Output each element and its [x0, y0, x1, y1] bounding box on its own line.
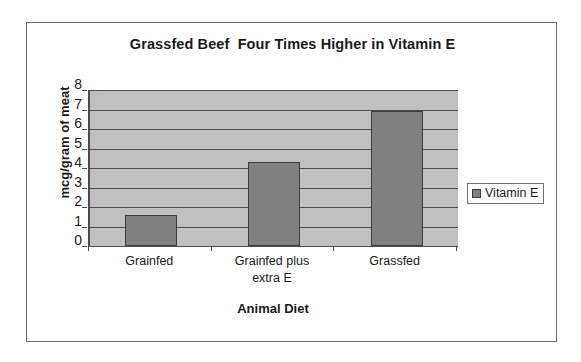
- y-tick-mark-0: [82, 246, 87, 247]
- bar-grassfed: [371, 111, 423, 246]
- bar-grainfed-plus-extra-e: [248, 162, 300, 246]
- x-tick-label-line: extra E: [252, 271, 292, 285]
- y-tick-mark-1: [82, 227, 87, 228]
- chart-title: Grassfed Beef Four Times Higher in Vitam…: [27, 36, 558, 52]
- y-tick-label-1: 1: [60, 214, 82, 228]
- x-tick-mark-1: [211, 246, 212, 251]
- x-axis-title: Animal Diet: [88, 301, 458, 316]
- x-tick-label-grainfed: Grainfed: [88, 253, 211, 270]
- y-tick-mark-4: [82, 168, 87, 169]
- y-tick-mark-2: [82, 207, 87, 208]
- y-tick-label-2: 2: [60, 194, 82, 208]
- x-axis-line: [88, 246, 458, 247]
- y-tick-mark-3: [82, 188, 87, 189]
- x-tick-mark-2: [333, 246, 334, 251]
- y-tick-label-5: 5: [60, 136, 82, 150]
- y-tick-label-7: 7: [60, 97, 82, 111]
- x-tick-label-line: Grainfed plus: [235, 254, 309, 268]
- y-tick-label-4: 4: [60, 155, 82, 169]
- x-tick-label-grassfed: Grassfed: [333, 253, 456, 270]
- y-tick-label-0: 0: [60, 233, 82, 247]
- y-tick-label-6: 6: [60, 116, 82, 130]
- legend-swatch-vitamin-e: [472, 189, 481, 198]
- bar-grainfed: [125, 215, 177, 246]
- y-tick-label-3: 3: [60, 175, 82, 189]
- legend-label-vitamin-e: Vitamin E: [485, 187, 538, 200]
- x-tick-mark-0: [88, 246, 89, 251]
- plot-area: [88, 90, 458, 246]
- y-tick-mark-6: [82, 129, 87, 130]
- y-axis-tick-labels: 012345678: [60, 84, 82, 240]
- y-tick-label-8: 8: [60, 77, 82, 91]
- x-tick-label-line: Grainfed: [125, 254, 173, 268]
- x-tick-mark-3: [456, 246, 457, 251]
- y-tick-mark-8: [82, 90, 87, 91]
- gridline-y-8: [90, 90, 458, 91]
- x-tick-label-line: Grassfed: [369, 254, 420, 268]
- chart-legend: Vitamin E: [467, 183, 544, 204]
- gridline-y-7: [90, 110, 458, 111]
- y-tick-mark-7: [82, 110, 87, 111]
- y-tick-mark-5: [82, 149, 87, 150]
- x-tick-label-grainfed-plus-extra-e: Grainfed plusextra E: [211, 253, 334, 287]
- chart-frame: Grassfed Beef Four Times Higher in Vitam…: [26, 22, 557, 342]
